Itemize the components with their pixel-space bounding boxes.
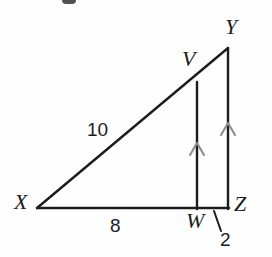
vertex-label-y: Y — [225, 16, 237, 38]
measure-label-xv: 10 — [87, 120, 108, 139]
measure-label-wz: 2 — [220, 230, 231, 249]
vertex-label-v: V — [182, 48, 195, 70]
segment-hypotenuse-xy — [37, 48, 228, 208]
cropped-text-artifact — [62, 0, 76, 4]
vertex-label-z: Z — [234, 193, 246, 215]
vertex-label-w: W — [186, 210, 204, 232]
measure-label-xw: 8 — [110, 216, 121, 235]
vertex-label-x: X — [14, 191, 27, 213]
geometry-figure: Y V X W Z 10 8 2 — [0, 0, 272, 257]
leader-line-wz — [214, 211, 221, 231]
